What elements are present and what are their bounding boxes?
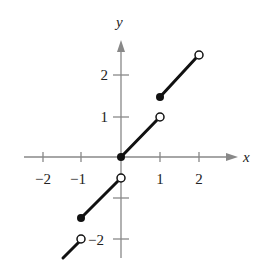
segment bbox=[160, 58, 196, 97]
y-tick-label: −2 bbox=[88, 232, 104, 248]
open-point bbox=[195, 51, 203, 59]
x-axis-arrow-icon bbox=[226, 153, 238, 161]
y-axis-arrow-icon bbox=[117, 40, 125, 52]
x-tick-label: −1 bbox=[70, 171, 86, 187]
segment bbox=[81, 181, 118, 218]
graph: x y −2 −1 1 2 1 2 −2 bbox=[0, 0, 259, 271]
open-point bbox=[117, 174, 125, 182]
function-segments bbox=[63, 58, 196, 258]
segment bbox=[63, 242, 79, 258]
x-axis-label: x bbox=[242, 149, 250, 165]
x-tick-label: −2 bbox=[35, 171, 51, 187]
x-tick-label: 1 bbox=[156, 171, 164, 187]
closed-point bbox=[77, 214, 85, 222]
segment bbox=[121, 120, 157, 157]
open-point bbox=[77, 235, 85, 243]
open-point bbox=[156, 113, 164, 121]
y-tick-label: 1 bbox=[101, 109, 109, 125]
x-tick-label: 2 bbox=[195, 171, 203, 187]
closed-point bbox=[117, 153, 125, 161]
y-axis-label: y bbox=[114, 14, 123, 30]
closed-point bbox=[156, 93, 164, 101]
endpoints bbox=[77, 51, 203, 243]
y-tick-label: 2 bbox=[101, 67, 109, 83]
